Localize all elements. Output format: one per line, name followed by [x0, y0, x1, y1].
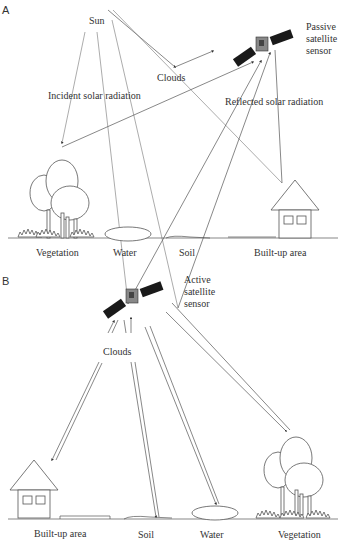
panel-a: A Sun Clouds Incident solar radiation Pa…: [2, 4, 338, 308]
incident-radiation-label: Incident solar radiation: [48, 90, 141, 101]
vegetation-icon-a: [30, 160, 89, 238]
clouds-label-b: Clouds: [103, 346, 131, 357]
reflected-ray-soil: [178, 53, 270, 308]
incident-ray-vegetation: [62, 32, 85, 143]
target-label-b-water: Water: [200, 529, 224, 540]
house-icon-a: [271, 180, 319, 238]
active-ray-house: [52, 362, 99, 460]
active-sensor-label-1: Active: [184, 274, 211, 285]
active-sensor-label-3: sensor: [184, 298, 210, 309]
house-icon-b: [10, 460, 58, 518]
target-label-b-builtup: Built-up area: [34, 528, 87, 539]
passive-sensor-label-1: Passive: [306, 21, 337, 32]
sun-label: Sun: [89, 15, 105, 26]
incident-ray-clouds: [108, 10, 175, 67]
active-ray-soil: [131, 362, 156, 517]
target-label-b-soil: Soil: [138, 529, 154, 540]
water-icon-a: [105, 227, 151, 241]
clouds-label-a: Clouds: [157, 72, 185, 83]
cloud-reflection-ray: [175, 51, 213, 67]
remote-sensing-diagram: A Sun Clouds Incident solar radiation Pa…: [0, 0, 347, 550]
vegetation-icon-b: [264, 437, 323, 515]
panel-b-label: B: [2, 275, 9, 287]
target-label-a-water: Water: [113, 247, 137, 258]
panel-b: B Active satellite sensor Clouds: [2, 274, 338, 540]
active-satellite-icon: [103, 281, 164, 318]
reflected-radiation-label: Reflected solar radiation: [225, 96, 323, 107]
incident-ray-soil: [112, 20, 178, 308]
target-label-a-builtup: Built-up area: [254, 247, 307, 258]
target-label-b-vegetation: Vegetation: [278, 529, 321, 540]
soil-icon-b: [124, 516, 172, 519]
panel-a-label: A: [2, 4, 10, 16]
passive-sensor-label-3: sensor: [306, 45, 332, 56]
active-ray-water: [145, 327, 216, 504]
target-label-a-soil: Soil: [179, 247, 195, 258]
target-label-a-vegetation: Vegetation: [36, 247, 79, 258]
water-icon-b: [192, 506, 238, 520]
passive-sensor-label-2: satellite: [306, 33, 338, 44]
active-sensor-label-2: satellite: [184, 286, 216, 297]
incident-ray-water: [97, 32, 128, 303]
reflected-ray-house: [275, 50, 282, 183]
passive-satellite-icon: [233, 29, 294, 66]
